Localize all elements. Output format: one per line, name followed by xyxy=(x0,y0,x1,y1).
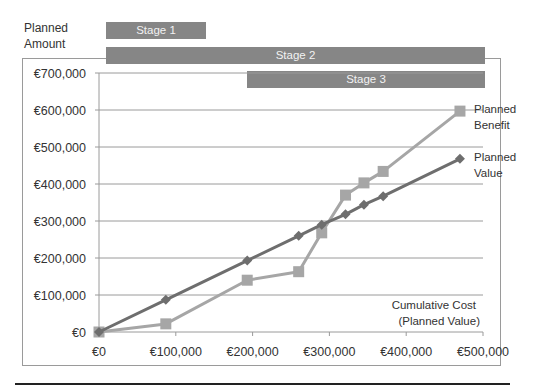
diamond-marker-icon xyxy=(242,256,252,266)
x-tick-label: €400,000 xyxy=(380,345,432,359)
diamond-marker-icon xyxy=(161,295,171,305)
square-marker-icon xyxy=(454,106,465,117)
y-tick-label: €300,000 xyxy=(34,215,86,229)
diamond-marker-icon xyxy=(378,191,388,201)
x-tick-label: €200,000 xyxy=(227,345,279,359)
x-axis-title-line2: (Planned Value) xyxy=(398,315,480,327)
y-tick-label: €500,000 xyxy=(34,141,86,155)
y-tick-label: €700,000 xyxy=(34,67,86,81)
x-tick-label: €300,000 xyxy=(303,345,355,359)
diamond-marker-icon xyxy=(455,154,465,164)
x-axis-title-line1: Cumulative Cost xyxy=(392,299,477,311)
x-tick-label: €0 xyxy=(92,345,106,359)
square-marker-icon xyxy=(340,190,351,201)
x-tick-label: €100,000 xyxy=(150,345,202,359)
planned-benefit-label-line2: Benefit xyxy=(474,119,511,131)
planned-value-label-line2: Value xyxy=(474,167,503,179)
y-tick-label: €600,000 xyxy=(34,104,86,118)
x-tick-label: €500,000 xyxy=(457,345,509,359)
planned-benefit-label-line1: Planned xyxy=(474,103,516,115)
y-tick-label: €100,000 xyxy=(34,289,86,303)
gridlines xyxy=(95,73,483,295)
axes xyxy=(99,73,483,336)
bottom-divider xyxy=(15,383,510,385)
square-marker-icon xyxy=(378,166,389,177)
y-tick-label: €0 xyxy=(72,326,86,340)
line-chart: €0€100,000€200,000€300,000€400,000€500,0… xyxy=(0,0,545,392)
square-marker-icon xyxy=(293,266,304,277)
y-tick-label: €200,000 xyxy=(34,252,86,266)
y-tick-label: €400,000 xyxy=(34,178,86,192)
square-marker-icon xyxy=(160,318,171,329)
square-marker-icon xyxy=(358,177,369,188)
square-marker-icon xyxy=(242,275,253,286)
planned-value-label-line1: Planned xyxy=(474,151,516,163)
diamond-marker-icon xyxy=(294,231,304,241)
